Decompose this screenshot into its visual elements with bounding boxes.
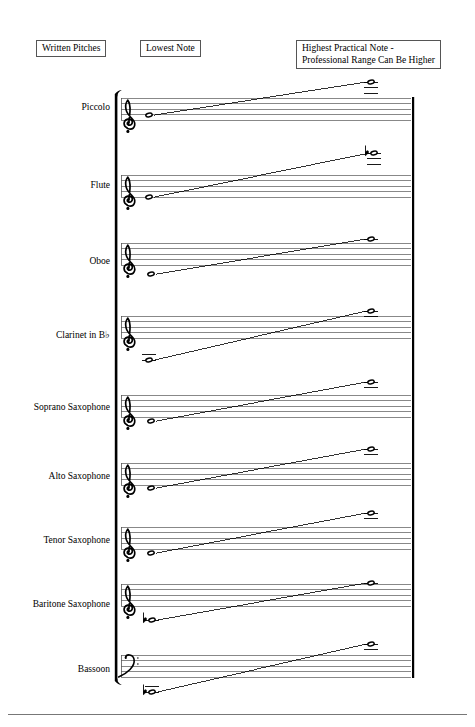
staff-system-flute [121, 146, 411, 210]
range-connector [156, 513, 367, 553]
high-note-group-oboe [364, 236, 378, 243]
staff-system-bassoon [119, 641, 411, 696]
flat-accidental-icon [144, 613, 147, 623]
high-note-group-soprano-saxophone [364, 379, 378, 388]
high-note-head [367, 510, 376, 517]
high-note-group-piccolo [364, 79, 378, 93]
staff-system-piccolo [121, 79, 411, 133]
flat-accidental-icon [144, 685, 147, 695]
low-note-group-bassoon [144, 685, 160, 696]
low-note-group-baritone-saxophone [144, 613, 160, 624]
score-page: Written Pitches Lowest Note Highest Prac… [0, 0, 475, 727]
high-note-head [367, 379, 376, 386]
low-note-head [147, 418, 156, 425]
high-note-head [367, 641, 376, 648]
page-bottom-rule [8, 714, 467, 715]
high-note-head [370, 150, 379, 157]
range-connector [156, 382, 367, 421]
low-note-head [148, 617, 157, 624]
low-note-head [147, 271, 156, 278]
treble-clef-icon [124, 245, 135, 278]
low-note-group-tenor-saxophone [147, 550, 156, 557]
flat-accidental-icon [366, 146, 369, 156]
staff-system-oboe [121, 236, 411, 278]
range-connector [157, 583, 367, 620]
low-note-group-soprano-saxophone [147, 418, 156, 425]
high-note-head [367, 79, 376, 86]
high-note-head [367, 580, 376, 587]
high-note-group-tenor-saxophone [364, 510, 378, 519]
treble-clef-icon [124, 177, 135, 210]
range-connector [154, 82, 367, 115]
high-note-head [367, 446, 376, 453]
staff-system-baritone-saxophone [121, 580, 411, 624]
low-note-head [148, 689, 157, 696]
high-note-group-alto-saxophone [364, 446, 378, 455]
treble-clef-icon [124, 529, 135, 562]
low-note-head [145, 112, 154, 119]
high-note-group-bassoon [364, 641, 378, 650]
treble-clef-icon [124, 318, 135, 351]
low-note-head [147, 550, 156, 557]
low-note-group-clarinet-in-b-flat [142, 355, 156, 364]
range-connector [156, 239, 367, 274]
staff-system-soprano-saxophone [121, 379, 411, 430]
low-note-head [145, 357, 154, 364]
notation-system [0, 0, 475, 727]
treble-clef-icon [124, 465, 135, 498]
high-note-head [367, 308, 376, 315]
low-note-group-piccolo [145, 112, 154, 119]
low-note-head [145, 194, 154, 201]
treble-clef-icon [124, 397, 135, 430]
treble-clef-icon [124, 100, 135, 133]
high-note-head [367, 236, 376, 243]
staff-system-alto-saxophone [121, 446, 411, 498]
low-note-group-alto-saxophone [147, 485, 156, 492]
high-note-group-flute [366, 146, 382, 165]
high-note-group-baritone-saxophone [364, 580, 378, 587]
low-note-head [147, 485, 156, 492]
low-note-group-flute [145, 194, 154, 201]
low-note-group-oboe [147, 271, 156, 278]
range-connector [157, 644, 367, 692]
system-right-barline [412, 97, 414, 678]
staff-system-clarinet-in-b-flat [121, 308, 411, 364]
high-note-group-clarinet-in-b-flat [364, 308, 378, 317]
staff-system-tenor-saxophone [121, 510, 411, 562]
treble-clef-icon [124, 586, 135, 619]
range-connector [154, 311, 367, 360]
